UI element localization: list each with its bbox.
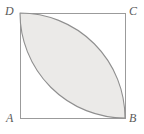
figure-container: A B C D (0, 0, 144, 134)
vertex-label-d: D (5, 5, 14, 17)
vertex-label-b: B (129, 112, 136, 124)
geometry-diagram (0, 0, 144, 134)
vertex-label-a: A (6, 112, 13, 124)
vertex-label-c: C (129, 5, 137, 17)
